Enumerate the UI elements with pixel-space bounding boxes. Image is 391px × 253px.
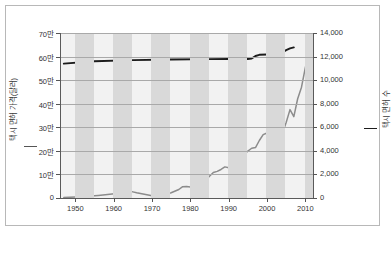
tick-label-right: 4,000: [320, 146, 360, 155]
tick-right: [313, 174, 317, 175]
tick-right: [313, 198, 317, 199]
tick-label-right: 14,000: [320, 28, 360, 37]
tick-left: [56, 127, 60, 128]
left-axis-title: 택시 면허 가격(달러): [7, 55, 18, 165]
tick-right: [313, 57, 317, 58]
tick-label-left: 0: [20, 193, 54, 202]
tick-label-right: 12,000: [320, 52, 360, 61]
gridline: [60, 151, 313, 152]
gridline: [60, 33, 313, 34]
gridline: [60, 57, 313, 58]
background-band: [228, 33, 247, 198]
background-band: [113, 33, 132, 198]
background-band: [266, 33, 285, 198]
background-band: [75, 33, 94, 198]
tick-right: [313, 151, 317, 152]
gridline: [60, 80, 313, 81]
tick-left: [56, 151, 60, 152]
tick-x: [305, 198, 306, 202]
legend-marker-count: [364, 128, 377, 129]
left-axis-line: [60, 33, 61, 199]
gridline: [60, 104, 313, 105]
tick-label-left: 60만: [20, 52, 54, 63]
bottom-axis-line: [60, 198, 314, 199]
tick-x: [114, 198, 115, 202]
tick-right: [313, 104, 317, 105]
tick-x: [190, 198, 191, 202]
background-band: [305, 33, 313, 198]
tick-left: [56, 57, 60, 58]
tick-label-left: 40만: [20, 99, 54, 110]
tick-right: [313, 33, 317, 34]
tick-left: [56, 198, 60, 199]
tick-x: [267, 198, 268, 202]
gridline: [60, 127, 313, 128]
tick-label-x: 1950: [55, 204, 95, 213]
tick-label-left: 10만: [20, 169, 54, 180]
tick-left: [56, 33, 60, 34]
tick-label-right: 0: [320, 193, 360, 202]
tick-label-left: 70만: [20, 28, 54, 39]
tick-x: [152, 198, 153, 202]
tick-label-right: 2,000: [320, 169, 360, 178]
plot-area: [60, 33, 313, 198]
background-band: [151, 33, 170, 198]
tick-right: [313, 127, 317, 128]
tick-label-x: 1970: [132, 204, 172, 213]
tick-label-x: 1980: [170, 204, 210, 213]
right-axis-title: 택시 면허 수: [380, 55, 391, 165]
background-band: [190, 33, 209, 198]
line-taxi-medallion-count: [64, 47, 294, 63]
tick-left: [56, 174, 60, 175]
tick-label-right: 10,000: [320, 75, 360, 84]
gridline: [60, 174, 313, 175]
tick-label-x: 1960: [94, 204, 134, 213]
tick-right: [313, 80, 317, 81]
tick-label-left: 50만: [20, 75, 54, 86]
tick-x: [229, 198, 230, 202]
tick-label-left: 20만: [20, 146, 54, 157]
tick-label-right: 8,000: [320, 99, 360, 108]
tick-left: [56, 104, 60, 105]
tick-label-right: 6,000: [320, 122, 360, 131]
tick-x: [75, 198, 76, 202]
tick-label-x: 1990: [209, 204, 249, 213]
tick-label-x: 2000: [247, 204, 287, 213]
tick-left: [56, 80, 60, 81]
tick-label-left: 30만: [20, 122, 54, 133]
tick-label-x: 2010: [285, 204, 325, 213]
